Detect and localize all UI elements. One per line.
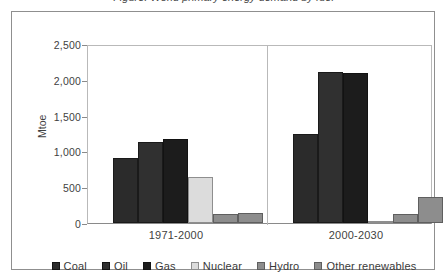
legend-item-gas[interactable]: Gas	[143, 260, 176, 272]
legend-swatch-icon-nuclear	[191, 262, 199, 270]
plot-area	[87, 45, 432, 224]
legend-item-other-renewables[interactable]: Other renewables	[314, 260, 416, 272]
y-tick-label-500: 500	[63, 182, 81, 194]
legend-swatch-icon-gas	[143, 262, 151, 270]
legend-label: Nuclear	[203, 260, 242, 272]
figure-frame: 05001,0001,5002,0002,500 Mtoe 1971-2000 …	[11, 11, 435, 270]
bar-nuclear-2000-2030	[368, 221, 393, 223]
legend-swatch-icon-oil	[102, 262, 110, 270]
legend-item-nuclear[interactable]: Nuclear	[191, 260, 242, 272]
chart-legend: CoalOilGasNuclearHydroOther renewables	[32, 256, 436, 276]
bar-group-2000-2030	[88, 44, 433, 223]
bar-gas-2000-2030	[343, 73, 368, 223]
figure-caption: Figure: World primary energy demand by f…	[0, 0, 447, 3]
legend-swatch-icon-hydro	[257, 262, 265, 270]
y-tick-label-2500: 2,500	[54, 39, 81, 51]
y-tick-label-1500: 1,500	[54, 111, 81, 123]
legend-swatch-icon-other-renewables	[314, 262, 322, 270]
bar-coal-2000-2030	[293, 134, 318, 223]
legend-label: Hydro	[269, 260, 299, 272]
legend-label: Coal	[64, 260, 87, 272]
legend-item-hydro[interactable]: Hydro	[257, 260, 299, 272]
bar-other-renewables-2000-2030	[418, 197, 443, 223]
y-axis-title: Mtoe	[36, 115, 48, 138]
legend-label: Gas	[155, 260, 176, 272]
legend-label: Oil	[114, 260, 128, 272]
bar-hydro-2000-2030	[393, 214, 418, 223]
x-axis-label-0: 1971-2000	[116, 229, 236, 241]
y-tick-mark-0	[82, 224, 87, 225]
legend-label: Other renewables	[326, 260, 416, 272]
bar-oil-2000-2030	[318, 72, 343, 223]
x-axis-label-1: 2000-2030	[296, 229, 416, 241]
y-tick-label-1000: 1,000	[54, 146, 81, 158]
legend-item-coal[interactable]: Coal	[52, 260, 87, 272]
figure-container: Figure: World primary energy demand by f…	[0, 0, 447, 278]
y-tick-label-0: 0	[75, 218, 81, 230]
legend-item-oil[interactable]: Oil	[102, 260, 128, 272]
legend-swatch-icon-coal	[52, 262, 60, 270]
y-tick-label-2000: 2,000	[54, 75, 81, 87]
